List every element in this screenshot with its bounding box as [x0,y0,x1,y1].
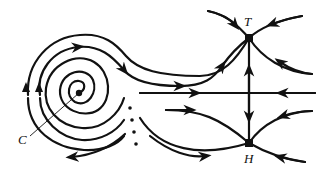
phase-portrait-diagram: C T H [0,0,333,174]
spiral-trajectories [28,35,249,157]
label-t: T [244,14,252,29]
label-c: C [18,132,27,147]
saddle-point-h [245,139,253,147]
label-h: H [243,151,254,166]
saddle-point-t [245,34,253,42]
separatrix-dots [128,106,138,146]
